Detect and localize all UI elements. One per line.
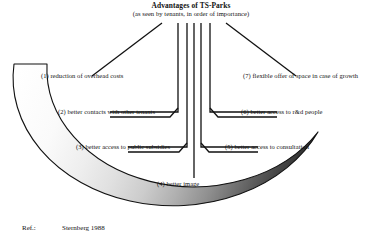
diagram-graphics — [0, 0, 382, 240]
connector-7 — [226, 23, 296, 76]
reference-block: Ref.:Sternberg 1988 — [22, 224, 105, 232]
advantage-label-6: (6) better access to r&d people — [241, 108, 323, 115]
diagram-title: Advantages of TS-Parks (as seen by tenan… — [0, 2, 382, 18]
advantage-label-5: (5) better access to consultation — [225, 143, 309, 150]
title-subtitle: (as seen by tenants, in order of importa… — [0, 11, 382, 18]
advantage-label-1: (1) reduction of overhead costs — [41, 72, 123, 79]
title-main: Advantages of TS-Parks — [0, 2, 382, 10]
reference-label: Ref.: — [22, 224, 62, 232]
advantage-label-4: (4) better image — [157, 180, 199, 187]
advantage-label-7: (7) flexible offer of space in case of g… — [243, 72, 358, 79]
advantage-label-2: (2) better contacts with other tenants — [58, 108, 155, 115]
connector-lines — [92, 23, 296, 178]
reference-source: Sternberg 1988 — [62, 224, 105, 232]
connector-1 — [92, 23, 162, 76]
advantage-label-3: (3) better access to public subsidies — [76, 143, 170, 150]
advantages-diagram: Advantages of TS-Parks (as seen by tenan… — [0, 0, 382, 240]
